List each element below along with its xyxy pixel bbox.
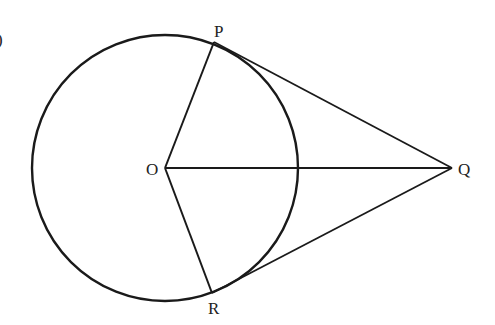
radius-or: [165, 168, 212, 293]
label-p: P: [214, 22, 223, 41]
label-q: Q: [458, 160, 470, 179]
tangent-pq: [214, 42, 452, 168]
radius-op: [165, 42, 214, 168]
figure-canvas: ) O P Q R: [0, 0, 495, 325]
tangent-rq: [212, 168, 452, 293]
margin-mark: ): [0, 30, 3, 49]
tangent-diagram: ) O P Q R: [0, 0, 495, 325]
label-o: O: [146, 160, 158, 179]
label-r: R: [208, 299, 220, 318]
